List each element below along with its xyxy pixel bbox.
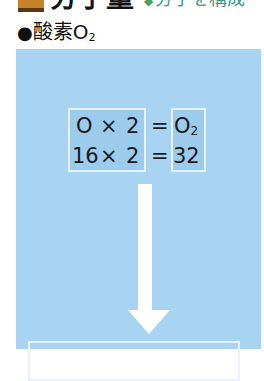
heading-subtitle: ◆分子を構成	[144, 0, 245, 12]
bullet-icon: ●	[17, 22, 33, 43]
calculation-panel: O × 2 = O2 16 × 2 = 32	[16, 49, 261, 349]
heading-square-icon	[18, 0, 44, 12]
diamond-icon: ◆	[144, 0, 153, 8]
section-heading: 分子量 ◆分子を構成	[18, 0, 245, 12]
down-arrow-icon	[138, 184, 152, 311]
subhead-oxygen: ●酸素O2	[17, 18, 95, 52]
heading-title: 分子量	[50, 0, 134, 12]
result-box	[28, 341, 240, 381]
down-arrow-head-icon	[128, 310, 170, 334]
